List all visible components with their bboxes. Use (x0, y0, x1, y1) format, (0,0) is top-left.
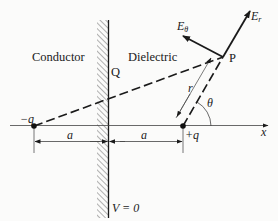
image-charge-to-p-dashed-line (34, 57, 223, 126)
real-charge-label: +q (185, 128, 199, 142)
distance-right-label: a (141, 128, 147, 142)
conductor-label: Conductor (32, 50, 86, 64)
image-charge-label: −q (20, 112, 34, 126)
radius-label: r (188, 81, 193, 95)
x-axis-label: x (260, 125, 267, 139)
potential-label: V = 0 (112, 201, 139, 215)
angular-field-vector (183, 36, 223, 57)
distance-left-label: a (67, 128, 73, 142)
angle-label: θ (207, 96, 213, 110)
radius-dimension-line-start (177, 94, 190, 117)
angular-field-label: Eθ (176, 19, 188, 34)
conductor-hatched-region (97, 20, 108, 218)
radial-field-label: Er (250, 9, 262, 24)
dielectric-label: Dielectric (128, 50, 178, 64)
point-p-label: P (229, 51, 236, 65)
image-charge-diagram: Conductor Dielectric Q P −q +q Er Eθ r θ… (0, 0, 278, 221)
radial-field-vector (223, 11, 250, 57)
point-q-label: Q (111, 65, 120, 79)
